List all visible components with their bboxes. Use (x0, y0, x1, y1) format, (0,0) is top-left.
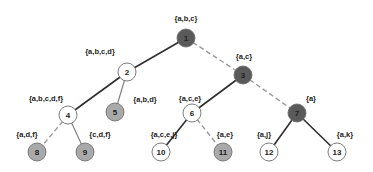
node-set-label: {a,e} (217, 130, 233, 139)
tree-node-10: 10 (152, 143, 170, 161)
tree-node-6: 6 (183, 104, 201, 122)
node-set-label: {a,b,d} (133, 95, 156, 104)
node-id-label: 4 (66, 111, 71, 120)
tree-node-11: 11 (214, 143, 232, 161)
node-id-label: 6 (190, 109, 195, 118)
node-set-label: {a,d,f} (16, 130, 37, 139)
node-id-label: 10 (157, 148, 166, 157)
node-set-label: {a} (306, 94, 316, 103)
tree-node-8: 8 (28, 143, 46, 161)
node-id-label: 7 (295, 109, 300, 118)
tree-node-2: 2 (118, 63, 136, 81)
node-set-label: {a,b,c,d,f} (29, 94, 63, 103)
node-id-label: 1 (184, 34, 189, 43)
node-set-label: {a,c,e,j} (151, 130, 178, 139)
node-set-label: {a,b,c,d} (85, 47, 115, 56)
edge-1-3 (186, 38, 243, 75)
node-id-label: 3 (241, 71, 246, 80)
node-id-label: 8 (35, 148, 40, 157)
node-set-label: {a,b,c} (175, 14, 198, 23)
node-id-label: 5 (113, 108, 118, 117)
node-id-label: 2 (125, 68, 130, 77)
tree-node-5: 5 (106, 103, 124, 121)
node-set-label: {a,k} (337, 130, 353, 139)
node-set-label: {a,c} (236, 52, 252, 61)
tree-node-1: 1 (177, 29, 195, 47)
node-set-label: {c,d,f} (89, 130, 110, 139)
tree-diagram: 12345678910111213 {a,b,c}{a,b,c,d}{a,c}{… (0, 0, 373, 172)
tree-node-3: 3 (234, 66, 252, 84)
node-set-label: {a,j} (257, 130, 271, 139)
node-id-label: 13 (333, 148, 342, 157)
edge-1-2 (127, 38, 186, 72)
node-id-label: 9 (83, 148, 88, 157)
tree-node-12: 12 (260, 143, 278, 161)
tree-node-4: 4 (59, 106, 77, 124)
tree-node-9: 9 (76, 143, 94, 161)
node-set-label: {a,c,e} (179, 94, 202, 103)
tree-node-7: 7 (288, 104, 306, 122)
node-id-label: 11 (219, 148, 228, 157)
edge-3-7 (243, 75, 297, 113)
node-id-label: 12 (265, 148, 274, 157)
tree-node-13: 13 (328, 143, 346, 161)
